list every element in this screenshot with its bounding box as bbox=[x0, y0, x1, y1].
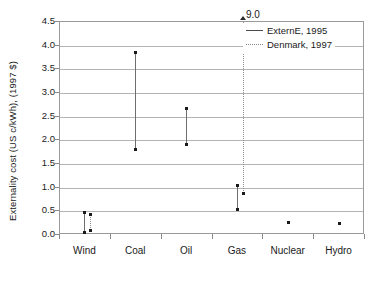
offscale-arrow-icon bbox=[240, 16, 246, 20]
y-axis-tick-label: 2.0 bbox=[26, 134, 55, 144]
y-axis-tick-labels: 0.00.51.01.52.02.53.03.54.04.5 bbox=[26, 0, 55, 282]
legend-swatch-solid-icon bbox=[246, 30, 263, 31]
x-axis-tick bbox=[59, 234, 60, 239]
externality-cost-chart: Externality cost (US c/kWh), (1997 $) 0.… bbox=[0, 0, 372, 282]
y-axis-tick-label: 3.5 bbox=[26, 63, 55, 73]
gridline bbox=[60, 211, 363, 212]
y-axis-tick bbox=[54, 68, 59, 69]
y-axis-tick-label: 4.0 bbox=[26, 40, 55, 50]
y-axis-tick-label: 1.5 bbox=[26, 158, 55, 168]
y-axis-tick bbox=[54, 187, 59, 188]
y-axis-title: Externality cost (US c/kWh), (1997 $) bbox=[2, 0, 22, 282]
x-axis-tick bbox=[161, 234, 162, 239]
x-axis-tick bbox=[313, 234, 314, 239]
x-axis-tick bbox=[212, 234, 213, 239]
y-axis-tick-label: 4.5 bbox=[26, 16, 55, 26]
legend-label: ExternE, 1995 bbox=[267, 25, 327, 37]
x-axis-tick bbox=[110, 234, 111, 239]
y-axis-tick bbox=[54, 45, 59, 46]
x-axis-category-labels: WindCoalOilGasNuclearHydro bbox=[59, 244, 364, 262]
x-axis-label-wind: Wind bbox=[59, 244, 110, 262]
legend-item-denmark: Denmark, 1997 bbox=[246, 38, 332, 51]
gridline bbox=[60, 188, 363, 189]
y-axis-tick-label: 2.5 bbox=[26, 111, 55, 121]
y-axis-tick-label: 1.0 bbox=[26, 182, 55, 192]
y-axis-tick bbox=[54, 21, 59, 22]
gridline bbox=[60, 164, 363, 165]
gridline bbox=[60, 117, 363, 118]
x-axis-label-hydro: Hydro bbox=[313, 244, 364, 262]
x-axis-label-gas: Gas bbox=[211, 244, 262, 262]
y-axis-tick bbox=[54, 210, 59, 211]
chart-legend: ExternE, 1995 Denmark, 1997 bbox=[243, 23, 335, 53]
gridline bbox=[60, 69, 363, 70]
legend-item-externe: ExternE, 1995 bbox=[246, 24, 332, 37]
y-axis-tick bbox=[54, 92, 59, 93]
y-axis-tick-label: 3.0 bbox=[26, 87, 55, 97]
y-axis-tick-label: 0.5 bbox=[26, 205, 55, 215]
offscale-value-label: 9.0 bbox=[246, 9, 260, 20]
x-axis-tick bbox=[262, 234, 263, 239]
x-axis-tick bbox=[364, 234, 365, 239]
x-axis-label-nuclear: Nuclear bbox=[262, 244, 313, 262]
y-axis-tick-label: 0.0 bbox=[26, 229, 55, 239]
legend-swatch-dotted-icon bbox=[246, 44, 263, 45]
x-axis-label-coal: Coal bbox=[110, 244, 161, 262]
gridline bbox=[60, 140, 363, 141]
y-axis-tick bbox=[54, 163, 59, 164]
x-axis-label-oil: Oil bbox=[161, 244, 212, 262]
gridline bbox=[60, 93, 363, 94]
y-axis-tick bbox=[54, 139, 59, 140]
y-axis-tick bbox=[54, 116, 59, 117]
legend-label: Denmark, 1997 bbox=[267, 39, 332, 51]
